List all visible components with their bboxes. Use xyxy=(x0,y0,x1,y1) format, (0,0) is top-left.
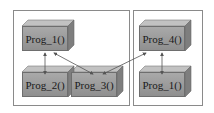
edges xyxy=(0,0,214,113)
edge-prog1-prog3-arrow-icon xyxy=(54,53,93,74)
edge-prog3-prog4-arrow-icon xyxy=(103,53,146,74)
